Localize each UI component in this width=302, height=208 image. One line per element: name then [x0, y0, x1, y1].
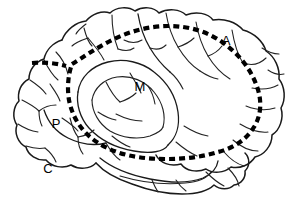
pars-triangularis-line	[233, 140, 258, 151]
insula-detail-b	[120, 93, 136, 102]
brain-diagram-figure: A M P C	[0, 0, 302, 208]
frontal-pole-line	[268, 70, 284, 74]
gyral-mark-i	[176, 142, 197, 156]
occipital-sulcus-b	[22, 100, 39, 111]
postcentral-sulcus	[112, 15, 118, 49]
dashed-segment-upper-left-group	[32, 63, 66, 66]
gyral-mark-h	[184, 126, 208, 136]
brain-illustration-svg: A M P C	[0, 0, 302, 208]
label-m: M	[135, 79, 146, 94]
occipital-sulcus-a	[30, 80, 46, 94]
parietal-branch-a	[84, 28, 92, 46]
label-c: C	[43, 161, 52, 176]
gyral-mark-e	[50, 84, 60, 101]
cerebellum-hint	[228, 168, 239, 186]
frontal-occipital-left-contour	[14, 40, 96, 168]
insula-detail-a	[106, 82, 120, 102]
p-region-branch-c	[78, 137, 83, 154]
insula-detail-f	[98, 112, 116, 120]
label-p: P	[52, 116, 61, 131]
dashed-segment-upper-left	[32, 63, 66, 66]
gyral-mark-c	[178, 38, 194, 47]
central-sulcus	[138, 14, 170, 72]
insula-detail-e	[116, 114, 142, 121]
sulcal-detail-group	[18, 13, 284, 166]
label-a: A	[222, 33, 231, 48]
central-branch-a	[150, 45, 166, 49]
central-branch-b	[124, 40, 142, 42]
occipital-sulcus-d	[26, 146, 45, 148]
gyral-mark-f	[200, 71, 218, 79]
parietal-branch-b	[72, 38, 88, 46]
temporal-branch-3	[206, 172, 224, 186]
gyral-mark-g	[170, 72, 183, 89]
sylvian-insular-group	[77, 60, 178, 152]
occipital-branch-a	[39, 105, 56, 111]
superior-frontal-sulcus	[196, 22, 230, 79]
occipital-branch-b	[39, 111, 42, 126]
gyral-mark-d	[208, 46, 222, 56]
orbital-gyrus-line	[224, 152, 244, 166]
precentral-sulcus	[166, 13, 200, 71]
intraparietal-sulcus	[88, 38, 104, 60]
gyral-mark-b	[118, 48, 134, 50]
insular-inner-ring	[92, 77, 164, 127]
occipital-sulcus-c	[18, 124, 38, 132]
